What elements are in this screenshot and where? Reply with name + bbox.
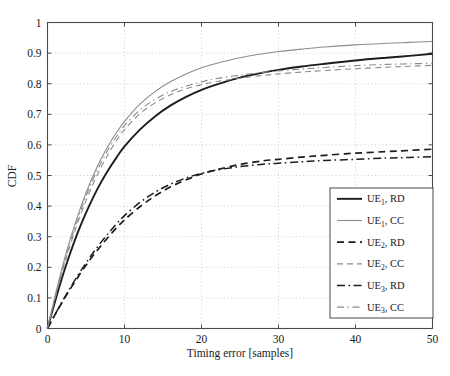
cdf-chart: 0102030405000.10.20.30.40.50.60.70.80.91… <box>0 0 450 376</box>
x-tick-label: 10 <box>119 333 131 345</box>
y-tick-label: 0.2 <box>27 261 42 273</box>
y-tick-label: 0.8 <box>27 78 42 90</box>
y-tick-label: 0.6 <box>27 139 42 151</box>
y-axis-title: CDF <box>6 165 18 187</box>
x-tick-label: 40 <box>350 333 362 345</box>
y-tick-label: 0.5 <box>27 170 42 182</box>
chart-legend[interactable]: UE1, RDUE1, CCUE2, RDUE2, CCUE3, RDUE3, … <box>330 188 433 318</box>
x-tick-label: 20 <box>196 333 208 345</box>
x-tick-label: 0 <box>45 333 51 345</box>
chart-page: 0102030405000.10.20.30.40.50.60.70.80.91… <box>0 0 450 376</box>
x-tick-label: 50 <box>427 333 439 345</box>
y-tick-label: 0 <box>36 323 42 335</box>
legend-box[interactable] <box>330 188 433 318</box>
y-tick-label: 1 <box>36 17 42 29</box>
y-tick-label: 0.1 <box>27 292 42 304</box>
x-axis-title: Timing error [samples] <box>187 347 293 360</box>
y-tick-label: 0.7 <box>27 108 42 120</box>
y-tick-label: 0.4 <box>27 200 42 212</box>
x-tick-label: 30 <box>273 333 285 345</box>
y-tick-label: 0.3 <box>27 231 42 243</box>
y-tick-label: 0.9 <box>27 47 42 59</box>
